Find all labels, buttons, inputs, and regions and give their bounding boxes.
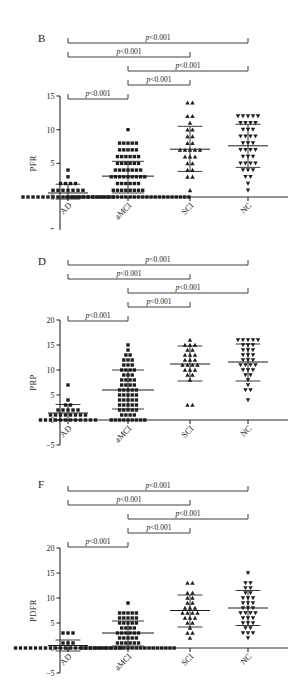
x-category-label-sci: SCI [179,200,196,217]
data-point [128,195,131,198]
data-point [190,363,194,367]
data-point [89,418,92,421]
data-point [246,114,250,118]
data-point [193,358,197,362]
data-point [126,363,129,366]
x-category-label-sci: SCI [179,651,196,668]
data-point [131,358,134,361]
y-tick-label: 10 [47,366,55,375]
data-point [61,189,64,192]
y-axis-label: PRP [28,374,38,390]
data-point [116,155,119,158]
data-point [183,368,187,372]
data-point [243,626,247,630]
data-point [110,418,113,421]
data-point [64,182,67,185]
data-point [131,418,134,421]
y-tick-label: 15 [47,569,55,578]
data-point [253,611,257,615]
data-point [133,626,136,629]
data-point [114,418,117,421]
data-point [152,646,155,649]
data-point [133,182,136,185]
data-point [198,148,202,152]
data-point [66,175,69,178]
data-point [243,363,247,367]
data-point [164,646,167,649]
data-point [118,398,121,401]
data-point [248,373,252,377]
data-point [118,616,121,619]
data-point [49,418,52,421]
data-point [64,646,67,649]
data-point [143,418,146,421]
data-point [253,135,257,139]
data-point [116,162,119,165]
data-point [190,161,194,165]
p-value-label: p<0.001 [84,537,110,546]
data-point [190,175,194,179]
data-point [122,611,125,614]
data-point [114,646,117,649]
y-tick-label: 20 [47,316,55,325]
p-value-label: p<0.001 [144,255,170,264]
data-point [122,175,125,178]
data-point [248,148,252,152]
data-point [56,189,59,192]
data-point [253,363,257,367]
data-point [185,363,189,367]
y-tick-label: 10 [47,126,55,135]
data-point [248,388,252,392]
data-point [122,168,125,171]
data-point [185,373,189,377]
data-point [41,195,44,198]
figure-root: B −5051015PFRADaMCISCINCp<0.001p<0.001p<… [0,0,301,683]
data-point [188,338,192,342]
scatter-plot-d: −505101520PRPADaMCISCINCp<0.001p<0.001p<… [0,230,301,455]
data-point [126,343,129,346]
data-point [14,646,17,649]
data-point [185,621,189,625]
data-point [243,161,247,165]
data-point [251,616,255,620]
data-point [124,641,127,644]
p-value-label: p<0.001 [144,33,170,42]
data-point [135,393,138,396]
data-point [241,631,245,635]
data-point [78,195,81,198]
data-point [69,413,72,416]
data-point [128,182,131,185]
data-point [122,141,125,144]
data-point [80,646,83,649]
data-point [69,182,72,185]
data-point [34,646,37,649]
data-point [131,363,134,366]
data-point [180,363,184,367]
data-point [112,189,115,192]
data-point [93,646,96,649]
data-point [185,596,189,600]
data-point [251,601,255,605]
data-point [251,141,255,145]
data-point [185,114,189,118]
data-point [180,611,184,615]
data-point [195,363,199,367]
data-point [137,189,140,192]
data-point [131,175,134,178]
data-point [246,398,250,402]
data-point [49,646,52,649]
data-point [135,398,138,401]
p-value-label: p<0.001 [145,297,171,306]
data-point [188,636,192,640]
data-point [137,182,140,185]
data-point [124,378,127,381]
data-point [131,398,134,401]
data-point [243,581,247,585]
x-category-label-nc: NC [238,200,254,216]
p-value-label: p<0.001 [115,269,141,278]
data-point [135,636,138,639]
data-point [61,408,64,411]
data-point [133,155,136,158]
data-point [160,646,163,649]
data-point [149,195,152,198]
